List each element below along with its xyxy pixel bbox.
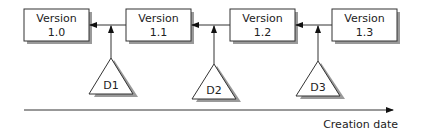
axis-label: Creation date <box>323 118 398 131</box>
version-box-1-3: Version 1.3 <box>332 9 400 44</box>
delta-label: D3 <box>310 81 325 94</box>
version-label-line1: Version <box>36 12 76 25</box>
version-delta-diagram: Version 1.0 Version 1.1 Version 1.2 Vers… <box>0 0 422 137</box>
version-number: 1.2 <box>254 26 272 39</box>
version-label-line1: Version <box>344 12 384 25</box>
delta-triangle-d2: D2 <box>192 64 241 102</box>
delta-triangle-d1: D1 <box>89 58 138 97</box>
delta-triangle-d3: D3 <box>296 61 345 99</box>
version-number: 1.0 <box>48 26 66 39</box>
delta-label: D1 <box>103 79 118 92</box>
version-box-1-1: Version 1.1 <box>126 9 194 44</box>
version-number: 1.1 <box>150 26 168 39</box>
version-label-line1: Version <box>138 12 178 25</box>
delta-label: D2 <box>206 84 221 97</box>
version-box-1-2: Version 1.2 <box>230 9 298 44</box>
version-number: 1.3 <box>356 26 374 39</box>
version-label-line1: Version <box>242 12 282 25</box>
version-box-1-0: Version 1.0 <box>24 9 92 44</box>
